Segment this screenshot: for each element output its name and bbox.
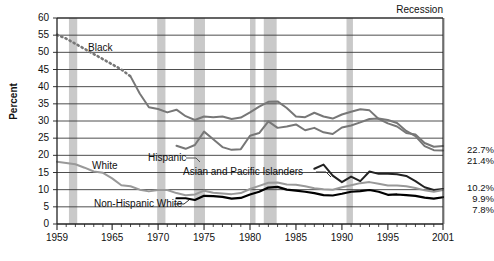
y-tick-label-0: 0 xyxy=(25,219,49,229)
y-tick-label-35: 35 xyxy=(25,99,49,109)
x-tick-label-1965: 1965 xyxy=(92,233,132,243)
y-tick-label-25: 25 xyxy=(25,133,49,143)
y-tick-label-20: 20 xyxy=(25,150,49,160)
y-tick-label-40: 40 xyxy=(25,82,49,92)
y-tick-label-50: 50 xyxy=(25,47,49,57)
series-label-asian-and-pacific-islanders: Asian and Pacific Islanders xyxy=(183,166,303,177)
series-label-non-hispanic-white: Non-Hispanic White xyxy=(94,198,182,209)
y-axis-title: Percent xyxy=(8,67,19,137)
end-value-asian-and-pacific-islanders: 10.2% xyxy=(450,183,494,193)
x-tick-label-1970: 1970 xyxy=(138,233,178,243)
end-value-non-hispanic-white: 7.8% xyxy=(450,205,494,215)
y-tick-label-5: 5 xyxy=(25,202,49,212)
x-tick-label-1985: 1985 xyxy=(276,233,316,243)
end-value-white: 9.9% xyxy=(450,194,494,204)
y-tick-label-55: 55 xyxy=(25,30,49,40)
series-label-white: White xyxy=(92,160,118,171)
end-value-hispanic: 21.4% xyxy=(450,156,494,166)
x-tick-label-1959: 1959 xyxy=(37,233,77,243)
y-tick-label-30: 30 xyxy=(25,116,49,126)
y-tick-label-10: 10 xyxy=(25,185,49,195)
x-tick-label-1990: 1990 xyxy=(322,233,362,243)
x-tick-label-2001: 2001 xyxy=(423,233,463,243)
x-tick-label-1980: 1980 xyxy=(230,233,270,243)
series-label-black: Black xyxy=(88,42,112,53)
y-tick-label-60: 60 xyxy=(25,13,49,23)
y-tick-label-15: 15 xyxy=(25,168,49,178)
x-tick-label-1995: 1995 xyxy=(368,233,408,243)
series-line-asian-and-pacific-islanders xyxy=(314,165,443,190)
y-tick-label-45: 45 xyxy=(25,65,49,75)
x-tick-label-1975: 1975 xyxy=(184,233,224,243)
end-value-black: 22.7% xyxy=(450,145,494,155)
series-label-hispanic: Hispanic xyxy=(148,152,186,163)
recession-legend-label: Recession xyxy=(396,4,443,15)
series-line-hispanic xyxy=(176,119,443,151)
